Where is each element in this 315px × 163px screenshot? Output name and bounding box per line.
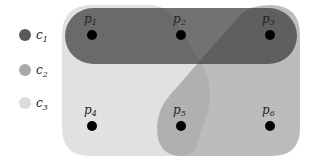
node-dot <box>265 121 275 131</box>
node-dot <box>87 30 97 40</box>
legend-label-c3: c3 <box>36 96 48 112</box>
node-dot <box>87 121 97 131</box>
legend-label-c1: c1 <box>36 28 48 44</box>
legend: c1 c2 c3 <box>19 28 48 112</box>
legend-item-c2: c2 <box>19 63 48 79</box>
legend-item-c3: c3 <box>19 96 48 112</box>
hypergraph-diagram: c1 c2 c3 p1 p2 p3 p4 p5 p6 <box>0 0 315 163</box>
legend-item-c1: c1 <box>19 28 48 44</box>
legend-swatch-c2 <box>19 64 31 76</box>
node-dot <box>176 121 186 131</box>
legend-swatch-c1 <box>19 29 31 41</box>
node-dot <box>265 30 275 40</box>
node-dot <box>176 30 186 40</box>
legend-label-c2: c2 <box>36 63 48 79</box>
legend-swatch-c3 <box>19 97 31 109</box>
